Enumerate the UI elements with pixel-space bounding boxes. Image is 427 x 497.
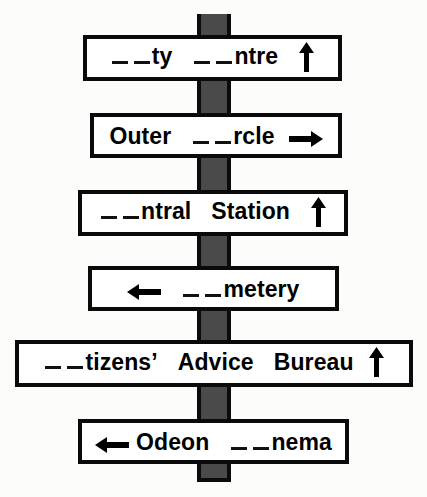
sign-content: ntralStation [82,194,344,232]
sign-content: tyntre [87,39,338,77]
direction-sign-outer-circle[interactable]: Outerrcle [90,113,342,158]
sign-word: ntre [234,43,278,69]
missing-letters-blank [99,196,141,219]
sign-word: Odeon [136,429,209,455]
sign-word: nema [271,429,331,455]
direction-sign-central-station[interactable]: ntralStation [78,190,348,236]
missing-letters-blank [181,274,223,297]
signpost-pole [197,14,231,482]
sign-content: Outerrcle [94,117,338,154]
sign-word: metery [223,276,299,302]
sign-content: metery [92,270,335,307]
missing-letters-blank [110,41,152,64]
signpost-scene: tyntre Outerrcle ntralStation metery tiz… [0,0,427,497]
sign-word: tizens’ [85,349,157,375]
sign-word: ty [152,43,173,69]
arrow-up-icon [298,42,315,72]
arrow-up-icon [368,347,385,377]
sign-text: metery [127,274,299,301]
direction-sign-city-centre[interactable]: tyntre [83,35,342,81]
direction-sign-citizens-advice-bureau[interactable]: tizens’AdviceBureau [15,340,413,387]
arrow-up-icon [310,197,327,227]
missing-letters-blank [191,121,233,144]
signpost-pole-bottom-cap [197,478,231,482]
sign-word: Advice [178,349,254,375]
sign-word: ntral [141,198,191,224]
sign-word: Bureau [274,349,354,375]
sign-text: tyntre [110,41,316,73]
sign-text: tizens’AdviceBureau [43,347,384,379]
direction-sign-odeon-cinema[interactable]: Odeonnema [78,419,349,464]
missing-letters-blank [43,347,85,370]
sign-word: Station [211,198,290,224]
missing-letters-blank [192,41,234,64]
sign-content: Odeonnema [82,423,345,460]
sign-word: rcle [233,123,274,149]
sign-text: Outerrcle [109,121,322,148]
sign-text: ntralStation [99,196,327,228]
arrow-left-icon [127,283,161,301]
arrow-left-icon [95,436,129,454]
sign-content: tizens’AdviceBureau [19,344,409,383]
arrow-right-icon [289,130,323,148]
missing-letters-blank [229,427,271,450]
direction-sign-cemetery[interactable]: metery [88,266,339,311]
sign-word: Outer [109,123,171,149]
sign-text: Odeonnema [95,427,332,454]
